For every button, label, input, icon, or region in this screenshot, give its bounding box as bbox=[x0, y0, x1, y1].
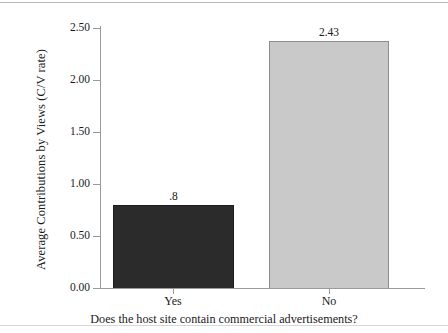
y-tick-label-wrap-0-00: 0.00 bbox=[0, 282, 90, 294]
y-tick-mark-1-50 bbox=[93, 132, 100, 133]
y-tick-label-wrap-2-50: 2.50 bbox=[0, 22, 90, 34]
bar-value-label-no: 2.43 bbox=[269, 26, 389, 38]
x-category-label-yes: Yes bbox=[133, 295, 213, 308]
y-tick-label-2-00: 2.00 bbox=[46, 74, 90, 86]
y-tick-mark-0-50 bbox=[93, 236, 100, 237]
y-tick-label-1-00: 1.00 bbox=[46, 178, 90, 190]
bar-chart-figure: Average Contributions by Views (C/V rate… bbox=[0, 0, 448, 333]
bar-no bbox=[269, 41, 389, 289]
y-tick-label-1-50: 1.50 bbox=[46, 126, 90, 138]
y-tick-mark-0-00 bbox=[93, 288, 100, 289]
y-tick-label-wrap-2-00: 2.00 bbox=[0, 74, 90, 86]
y-tick-label-0-50: 0.50 bbox=[46, 230, 90, 242]
y-tick-label-0-00: 0.00 bbox=[46, 282, 90, 294]
y-tick-label-wrap-0-50: 0.50 bbox=[0, 230, 90, 242]
x-category-label-no: No bbox=[289, 295, 369, 308]
y-tick-mark-2-50 bbox=[93, 28, 100, 29]
bar-yes bbox=[113, 205, 234, 289]
y-tick-label-wrap-1-50: 1.50 bbox=[0, 126, 90, 138]
y-axis-title: Average Contributions by Views (C/V rate… bbox=[34, 15, 49, 305]
bar-value-label-yes: .8 bbox=[113, 190, 234, 202]
y-tick-label-2-50: 2.50 bbox=[46, 22, 90, 34]
x-axis-line bbox=[100, 288, 425, 289]
y-tick-mark-1-00 bbox=[93, 184, 100, 185]
figure-top-rule bbox=[0, 2, 448, 3]
x-axis-title: Does the host site contain commercial ad… bbox=[0, 313, 448, 326]
y-axis-line bbox=[100, 26, 101, 289]
y-tick-label-wrap-1-00: 1.00 bbox=[0, 178, 90, 190]
y-tick-mark-2-00 bbox=[93, 80, 100, 81]
